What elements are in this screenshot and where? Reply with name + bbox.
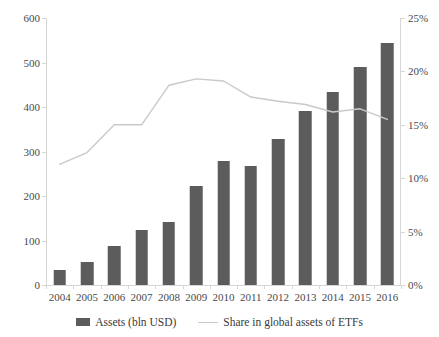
legend-label-share: Share in global assets of ETFs bbox=[223, 316, 363, 328]
x-tick-mark bbox=[46, 285, 47, 289]
right-tick-mark bbox=[401, 178, 405, 179]
chart-container: 0100200300400500600 0%5%10%15%20%25% 200… bbox=[0, 0, 439, 337]
x-axis-tick-label: 2006 bbox=[103, 292, 125, 303]
left-axis-tick-label: 400 bbox=[24, 102, 41, 113]
legend-label-assets: Assets (bln USD) bbox=[95, 316, 176, 328]
x-axis-tick-label: 2005 bbox=[76, 292, 98, 303]
right-tick-mark bbox=[401, 125, 405, 126]
line-series-share bbox=[46, 18, 401, 285]
x-axis-tick-label: 2016 bbox=[376, 292, 398, 303]
legend-item-assets: Assets (bln USD) bbox=[76, 316, 176, 328]
x-axis-tick-label: 2009 bbox=[185, 292, 207, 303]
left-axis-tick-label: 200 bbox=[24, 191, 41, 202]
x-tick-mark bbox=[292, 285, 293, 289]
bar-swatch-icon bbox=[76, 318, 90, 326]
x-tick-mark bbox=[128, 285, 129, 289]
plot-area: 0100200300400500600 0%5%10%15%20%25% 200… bbox=[46, 18, 401, 285]
left-axis-tick-label: 100 bbox=[24, 236, 41, 247]
x-axis-tick-label: 2007 bbox=[131, 292, 153, 303]
right-axis-tick-label: 25% bbox=[408, 13, 428, 24]
x-axis-tick-label: 2011 bbox=[240, 292, 262, 303]
x-tick-mark bbox=[237, 285, 238, 289]
x-tick-mark bbox=[210, 285, 211, 289]
x-tick-mark bbox=[264, 285, 265, 289]
x-tick-mark bbox=[374, 285, 375, 289]
legend-item-share: Share in global assets of ETFs bbox=[198, 316, 363, 328]
right-axis-tick-label: 15% bbox=[408, 120, 428, 131]
x-axis-tick-label: 2008 bbox=[158, 292, 180, 303]
left-axis-tick-label: 500 bbox=[24, 58, 41, 69]
chart-legend: Assets (bln USD) Share in global assets … bbox=[0, 316, 439, 328]
x-tick-mark bbox=[73, 285, 74, 289]
x-axis-tick-label: 2012 bbox=[267, 292, 289, 303]
left-axis-tick-label: 600 bbox=[24, 13, 41, 24]
right-tick-mark bbox=[401, 18, 405, 19]
x-axis-tick-label: 2015 bbox=[349, 292, 371, 303]
line-swatch-icon bbox=[198, 322, 218, 323]
right-axis-tick-label: 20% bbox=[408, 66, 428, 77]
x-tick-mark bbox=[183, 285, 184, 289]
x-tick-mark bbox=[319, 285, 320, 289]
x-tick-mark bbox=[101, 285, 102, 289]
x-axis-tick-label: 2004 bbox=[49, 292, 71, 303]
right-axis-tick-label: 5% bbox=[408, 227, 423, 238]
left-axis-tick-label: 0 bbox=[35, 280, 41, 291]
x-tick-mark bbox=[155, 285, 156, 289]
left-axis-tick-label: 300 bbox=[24, 147, 41, 158]
x-tick-mark bbox=[401, 285, 402, 289]
x-axis-tick-label: 2014 bbox=[322, 292, 344, 303]
x-tick-mark bbox=[346, 285, 347, 289]
x-axis-tick-label: 2010 bbox=[213, 292, 235, 303]
right-tick-mark bbox=[401, 232, 405, 233]
right-axis-tick-label: 10% bbox=[408, 173, 428, 184]
bottom-axis-line bbox=[46, 285, 401, 286]
right-tick-mark bbox=[401, 71, 405, 72]
right-axis-tick-label: 0% bbox=[408, 280, 423, 291]
x-axis-tick-label: 2013 bbox=[294, 292, 316, 303]
